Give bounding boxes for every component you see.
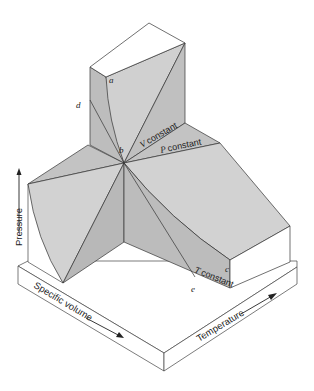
arrow-up-icon — [17, 168, 22, 175]
point-e-label: e — [191, 284, 195, 294]
point-d-label: d — [76, 100, 81, 110]
point-c-label: c — [225, 264, 229, 274]
point-b-label: b — [119, 145, 124, 155]
pressure-axis: Pressure — [13, 168, 24, 246]
pvt-surface-diagram: a b c d e Vconstant Pconstant Tconstant … — [0, 0, 314, 391]
pressure-axis-label: Pressure — [13, 208, 24, 246]
point-a-label: a — [109, 75, 114, 85]
